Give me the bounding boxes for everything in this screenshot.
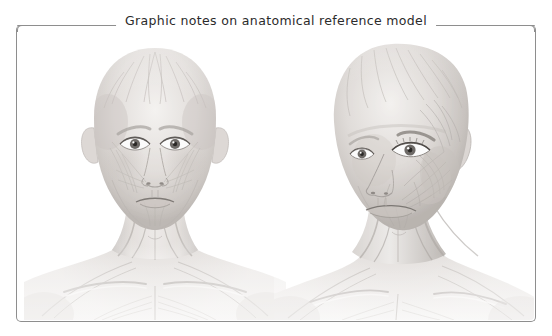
anatomical-figure-three-quarter bbox=[274, 30, 534, 320]
anatomical-figure-frontal bbox=[24, 30, 286, 320]
screenshot-root: Graphic notes on anatomical reference mo… bbox=[0, 0, 552, 336]
frontal-vignette bbox=[24, 30, 286, 320]
figure-stage bbox=[18, 26, 534, 320]
frontal-figure-illustration bbox=[24, 30, 286, 320]
three-quarter-figure-illustration bbox=[274, 30, 534, 320]
graphic-notes-panel: Graphic notes on anatomical reference mo… bbox=[16, 25, 536, 322]
three-quarter-vignette bbox=[274, 30, 534, 320]
